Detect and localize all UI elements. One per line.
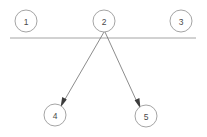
graph-svg: 1 2 3 4 5 [0,0,207,137]
node-4-label: 4 [53,111,58,121]
edge-2-to-4-line [64,32,104,101]
node-5[interactable]: 5 [135,105,157,127]
edge-2-to-5-line [105,32,137,102]
node-2[interactable]: 2 [93,10,115,32]
node-2-label: 2 [102,17,107,27]
node-5-label: 5 [144,112,149,122]
node-group: 1 2 3 4 5 [15,10,192,127]
node-1-label: 1 [24,17,29,27]
node-3-label: 3 [179,17,184,27]
node-4[interactable]: 4 [44,104,66,126]
edge-group [61,32,141,109]
diagram-canvas: 1 2 3 4 5 [0,0,207,137]
node-3[interactable]: 3 [170,10,192,32]
node-1[interactable]: 1 [15,10,37,32]
edge-2-to-5[interactable] [105,32,141,109]
edge-2-to-4[interactable] [61,32,105,108]
